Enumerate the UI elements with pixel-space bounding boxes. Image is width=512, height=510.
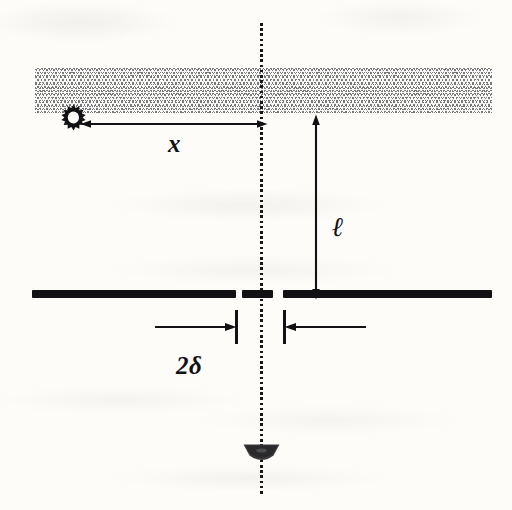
barrier-segment-left — [32, 290, 236, 298]
slit-separation-label: 2δ — [176, 352, 202, 380]
hatched-medium-band — [35, 68, 492, 113]
distance-ell-label: ℓ — [332, 212, 344, 243]
detector-lens-icon — [243, 443, 280, 462]
slit-separation-arrow-left — [155, 318, 237, 336]
optical-axis-dotted-line — [260, 23, 263, 495]
distance-x-label: x — [168, 130, 181, 158]
slit-separation-arrow-right — [284, 318, 366, 336]
barrier-segment-middle — [242, 290, 273, 298]
distance-ell-arrow — [306, 114, 326, 300]
barrier-segment-right — [283, 290, 492, 298]
physics-diagram-figure: x ℓ 2δ — [0, 0, 512, 510]
